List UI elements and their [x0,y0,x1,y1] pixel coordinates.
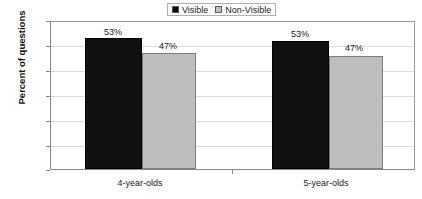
legend-label-non-visible: Non-Visible [225,5,271,15]
data-label-5-year-olds-non-visible: 47% [334,43,374,53]
gray-square-icon [215,6,222,13]
y-tick-mark-0 [46,170,50,171]
data-label-5-year-olds-visible: 53% [280,29,320,39]
bar-chart: Visible Non-Visible Percent of questions… [0,0,422,199]
legend-label-visible: Visible [182,5,208,15]
bar-5-year-olds-visible [272,41,329,169]
data-label-4-year-olds-non-visible: 47% [148,41,188,51]
x-category-label-5-year-olds: 5-year-olds [266,178,386,188]
black-square-icon [172,6,179,13]
legend-item-non-visible: Non-Visible [215,5,271,15]
chart-legend: Visible Non-Visible [167,3,276,16]
bar-4-year-olds-non-visible [142,53,196,169]
x-axis-category-separator [232,170,233,174]
legend-item-visible: Visible [172,5,208,15]
x-category-label-4-year-olds: 4-year-olds [80,178,200,188]
bar-4-year-olds-visible [85,38,142,169]
y-axis-title: Percent of questions [16,0,27,123]
data-label-4-year-olds-visible: 53% [93,27,133,37]
bar-5-year-olds-non-visible [329,56,383,169]
